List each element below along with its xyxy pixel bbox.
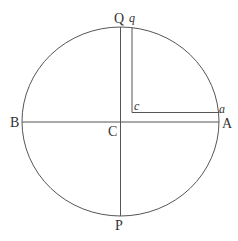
label-a: a — [219, 102, 225, 116]
geometry-diagram: Q q B C A P c a — [0, 0, 238, 241]
label-Q: Q — [114, 11, 124, 26]
label-P: P — [115, 218, 123, 233]
label-A: A — [222, 116, 233, 131]
label-C: C — [108, 124, 117, 139]
label-q: q — [129, 11, 135, 25]
diagram-canvas: Q q B C A P c a — [0, 0, 238, 241]
label-B: B — [10, 115, 19, 130]
label-c: c — [134, 99, 140, 113]
